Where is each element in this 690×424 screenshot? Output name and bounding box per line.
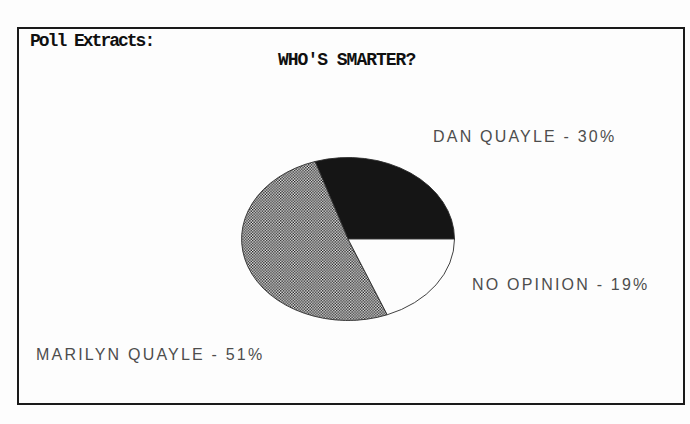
top-clipped-text: smarter of the two — [76, 0, 245, 5]
chart-title: WHO'S SMARTER? — [278, 50, 415, 70]
pie-chart — [238, 153, 460, 325]
callout-label-marilyn-quayle: MARILYN QUAYLE - 51% — [36, 345, 264, 364]
top-clipped-text-region: smarter of the two — [76, 0, 306, 7]
callout-label-no-opinion: NO OPINION - 19% — [472, 275, 649, 294]
callout-label-dan-quayle: DAN QUAYLE - 30% — [433, 127, 616, 146]
frame-label: Poll Extracts: — [30, 31, 153, 51]
scanned-page: smarter of the two Poll Extracts: WHO'S … — [0, 0, 690, 424]
